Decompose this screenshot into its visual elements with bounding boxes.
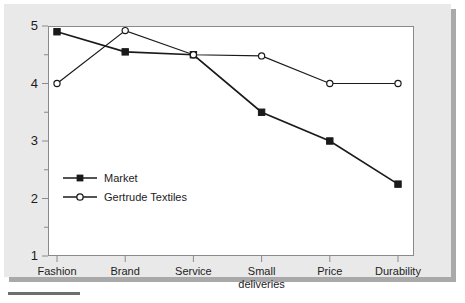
series-lines — [57, 31, 398, 185]
marker-market-3 — [258, 109, 264, 115]
series-markers — [54, 28, 401, 188]
marker-market-4 — [327, 138, 333, 144]
y-tick-label: 1 — [12, 249, 38, 262]
chart-figure: 12345 FashionBrandServiceSmall deliverie… — [0, 0, 465, 303]
chart-legend: MarketGertrude Textiles — [62, 168, 187, 206]
filled-square-icon — [62, 171, 98, 185]
legend-label: Gertrude Textiles — [104, 191, 187, 203]
marker-market-5 — [395, 181, 401, 187]
y-tick-label: 4 — [12, 77, 38, 90]
marker-gertrude-textiles-3 — [259, 53, 265, 59]
y-tick-label: 2 — [12, 192, 38, 205]
x-tick-label: Durability — [356, 265, 440, 278]
marker-gertrude-textiles-1 — [122, 28, 128, 34]
marker-market-1 — [122, 49, 128, 55]
marker-gertrude-textiles-4 — [327, 80, 333, 86]
y-tick-label: 3 — [12, 134, 38, 147]
marker-gertrude-textiles-2 — [190, 52, 196, 58]
marker-gertrude-textiles-0 — [54, 80, 60, 86]
legend-item: Gertrude Textiles — [62, 187, 187, 206]
open-circle-icon — [62, 190, 98, 204]
filled-square-icon — [77, 174, 84, 181]
chart-canvas — [0, 0, 465, 303]
legend-item: Market — [62, 168, 187, 187]
marker-gertrude-textiles-5 — [395, 80, 401, 86]
open-circle-icon — [77, 193, 83, 199]
y-tick-label: 5 — [12, 19, 38, 32]
series-line-market — [57, 32, 398, 184]
marker-market-0 — [54, 29, 60, 35]
bottom-rule-decoration — [8, 292, 80, 295]
y-axis-ticks — [42, 26, 48, 256]
legend-label: Market — [104, 172, 138, 184]
x-axis-ticks — [57, 256, 398, 262]
series-line-gertrude-textiles — [57, 31, 398, 84]
